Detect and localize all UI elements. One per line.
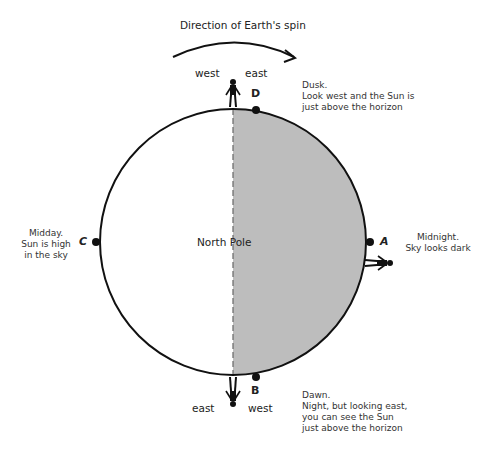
person-right-icon bbox=[365, 256, 393, 270]
point-c-dot bbox=[92, 238, 100, 246]
midday-caption-line: in the sky bbox=[18, 250, 74, 261]
point-a-dot bbox=[366, 238, 374, 246]
point-b-dot bbox=[252, 373, 260, 381]
dusk-caption: Dusk. Look west and the Sun is just abov… bbox=[302, 80, 415, 113]
spin-arrowhead-icon bbox=[284, 50, 295, 62]
point-a-letter: A bbox=[380, 236, 389, 247]
top-east-label: east bbox=[245, 68, 267, 79]
bottom-east-label: east bbox=[192, 403, 214, 414]
dawn-caption-line: just above the horizon bbox=[302, 423, 407, 434]
person-bottom-icon bbox=[226, 377, 240, 407]
earth-diagram bbox=[0, 0, 480, 450]
point-b-letter: B bbox=[251, 385, 259, 396]
person-top-icon bbox=[226, 79, 240, 107]
dusk-caption-line: Look west and the Sun is bbox=[302, 91, 415, 102]
dawn-caption: Dawn. Night, but looking east, you can s… bbox=[302, 390, 407, 434]
bottom-west-label: west bbox=[248, 403, 273, 414]
dusk-caption-line: just above the horizon bbox=[302, 102, 415, 113]
point-d-dot bbox=[252, 106, 260, 114]
point-c-letter: C bbox=[79, 236, 87, 247]
midday-caption: Midday. Sun is high in the sky bbox=[18, 228, 74, 261]
midnight-caption-line: Midnight. bbox=[398, 232, 478, 243]
midnight-caption-line: Sky looks dark bbox=[398, 243, 478, 254]
dusk-caption-line: Dusk. bbox=[302, 80, 415, 91]
dawn-caption-line: you can see the Sun bbox=[302, 412, 407, 423]
dawn-caption-line: Dawn. bbox=[302, 390, 407, 401]
top-west-label: west bbox=[195, 68, 220, 79]
spin-direction-title: Direction of Earth's spin bbox=[180, 20, 306, 31]
midday-caption-line: Sun is high bbox=[18, 239, 74, 250]
midday-caption-line: Midday. bbox=[18, 228, 74, 239]
point-d-letter: D bbox=[251, 88, 260, 99]
dawn-caption-line: Night, but looking east, bbox=[302, 401, 407, 412]
midnight-caption: Midnight. Sky looks dark bbox=[398, 232, 478, 254]
spin-arrow bbox=[173, 43, 294, 58]
north-pole-label: North Pole bbox=[197, 237, 251, 248]
